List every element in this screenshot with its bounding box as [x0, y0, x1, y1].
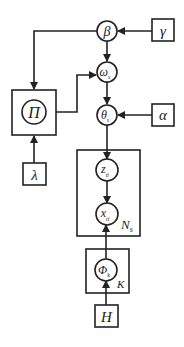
edge-beta-pi	[34, 31, 97, 89]
alpha-label: α	[159, 107, 168, 123]
plate-n-label: Ns	[120, 217, 133, 234]
pi-label: Π	[27, 104, 41, 121]
graphical-model-diagram: Ns K γ α λ H β ωs Π θs zti xti Φk	[0, 0, 184, 347]
beta-label: β	[103, 24, 111, 39]
lambda-label: λ	[30, 167, 38, 183]
h-label: H	[100, 309, 113, 325]
edges	[34, 31, 152, 305]
plate-k-label: K	[116, 278, 125, 290]
edge-pi-omega	[56, 75, 96, 112]
